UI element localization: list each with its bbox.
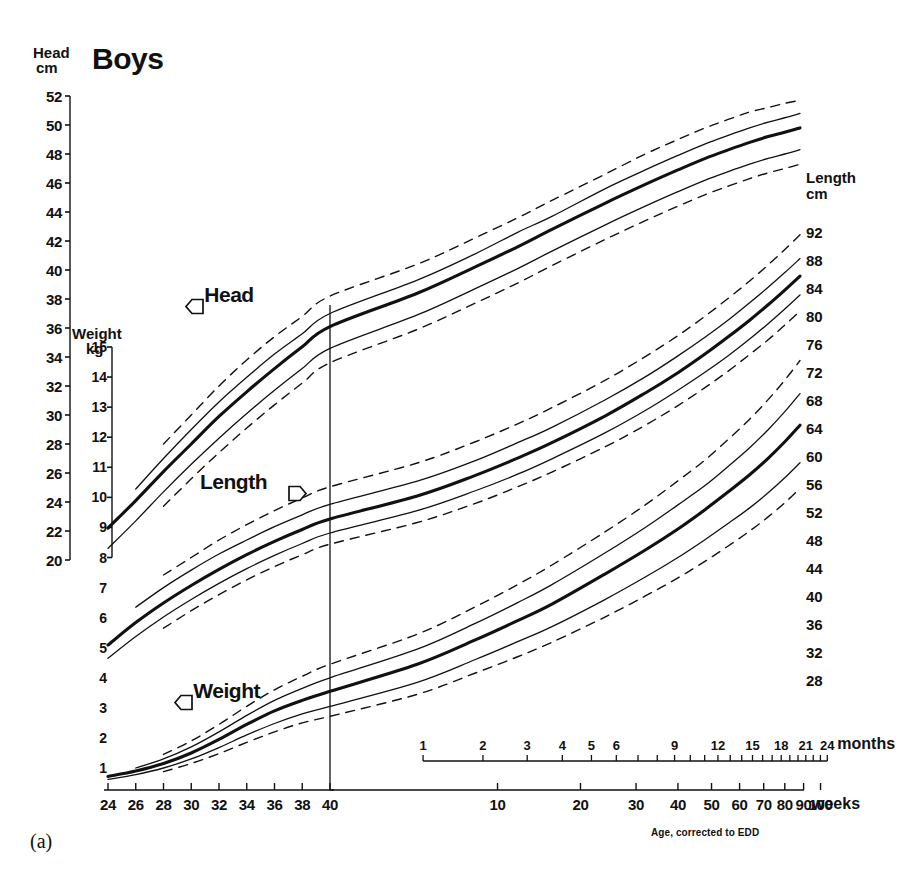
head-axis-tick-label: 26 [28, 465, 62, 482]
head-axis-tick-label: 20 [28, 552, 62, 569]
length-axis-tick-label: 76 [806, 336, 823, 353]
head-axis-unit: cm [36, 60, 58, 75]
head-axis-caption: Head [33, 45, 70, 60]
weight-axis-tick-label: 2 [75, 730, 107, 746]
head-axis-tick-label: 28 [28, 436, 62, 453]
length-axis-tick-label: 52 [806, 504, 823, 521]
weeks-axis-tick-label: 28 [153, 796, 175, 813]
length-curve-label: Length [200, 459, 307, 507]
weeks-axis-tick-label: 20 [567, 796, 593, 813]
centile-curve [108, 463, 800, 780]
head-axis-tick-label: 52 [28, 88, 62, 105]
length-curve-label-text: Length [200, 470, 267, 493]
weeks-axis-tick-label: 32 [208, 796, 230, 813]
head-axis-tick-label: 48 [28, 146, 62, 163]
weight-curve-label-text: Weight [193, 679, 260, 702]
weight-axis-tick-label: 4 [75, 670, 107, 686]
arrow-right-icon [267, 459, 307, 507]
weeks-axis-tick-label: 30 [623, 796, 649, 813]
weeks-axis-tick-label: 50 [699, 796, 725, 813]
weight-axis-tick-label: 3 [75, 700, 107, 716]
growth-chart: 5250484644424038363432302826242220Headcm… [0, 0, 903, 896]
weight-axis-tick-label: 6 [75, 610, 107, 626]
months-axis-tick-label: 1 [412, 738, 434, 753]
weeks-axis-tick-label: 60 [727, 796, 753, 813]
months-axis-tick-label: 15 [741, 738, 763, 753]
weeks-axis-tick-label: 34 [236, 796, 258, 813]
weight-curve-label: Weight [153, 668, 260, 716]
length-axis-tick-label: 48 [806, 532, 823, 549]
weight-axis-tick-label: 5 [75, 640, 107, 656]
months-axis-tick-label: 2 [472, 738, 494, 753]
weeks-axis-tick-label: 36 [264, 796, 286, 813]
length-axis-caption: Length [806, 170, 856, 185]
weeks-axis-tick-label: 40 [319, 796, 341, 813]
length-axis-tick-label: 32 [806, 644, 823, 661]
length-axis-tick-label: 84 [806, 280, 823, 297]
head-axis-tick-label: 24 [28, 494, 62, 511]
weeks-axis-tick-label: 26 [125, 796, 147, 813]
head-axis-tick-label: 40 [28, 262, 62, 279]
weight-axis-tick-label: 14 [75, 369, 107, 385]
head-axis-tick-label: 50 [28, 117, 62, 134]
head-axis-tick-label: 44 [28, 204, 62, 221]
months-axis-tick-label: 3 [516, 738, 538, 753]
length-axis-tick-label: 40 [806, 588, 823, 605]
weight-axis-tick-label: 11 [75, 459, 107, 475]
growth-chart-canvas [0, 0, 903, 896]
weeks-axis-tick-label: 24 [97, 796, 119, 813]
length-axis-tick-label: 72 [806, 364, 823, 381]
length-axis-tick-label: 88 [806, 252, 823, 269]
length-axis-tick-label: 64 [806, 420, 823, 437]
weight-axis-caption: Weight [72, 326, 122, 341]
age-footnote: Age, corrected to EDD [651, 827, 759, 838]
weight-axis-tick-label: 12 [75, 429, 107, 445]
months-axis-tick-label: 12 [707, 738, 729, 753]
head-axis-tick-label: 46 [28, 175, 62, 192]
head-axis-tick-label: 34 [28, 349, 62, 366]
months-axis-tick-label: 5 [580, 738, 602, 753]
weight-axis-tick-label: 7 [75, 580, 107, 596]
weight-axis-tick-label: 8 [75, 550, 107, 566]
weeks-axis-tick-label: 40 [665, 796, 691, 813]
weight-axis-tick-label: 9 [75, 519, 107, 535]
weeks-axis-tick-label: 30 [180, 796, 202, 813]
weight-axis-tick-label: 10 [75, 489, 107, 505]
length-axis-tick-label: 92 [806, 224, 823, 241]
length-axis-tick-label: 56 [806, 476, 823, 493]
length-axis-unit: cm [806, 186, 828, 201]
months-axis-tick-label: 6 [605, 738, 627, 753]
months-axis-unit-label: months [837, 735, 895, 753]
head-curve-label: Head [164, 272, 254, 320]
length-axis-tick-label: 60 [806, 448, 823, 465]
arrow-left-icon [153, 668, 193, 716]
length-axis-tick-label: 80 [806, 308, 823, 325]
months-axis-tick-label: 21 [795, 738, 817, 753]
centile-curve [164, 164, 801, 506]
head-axis-tick-label: 36 [28, 320, 62, 337]
length-axis-tick-label: 68 [806, 392, 823, 409]
figure-caption: (a) [30, 830, 52, 853]
head-axis-tick-label: 22 [28, 523, 62, 540]
weight-axis-tick-label: 1 [75, 760, 107, 776]
length-axis-tick-label: 28 [806, 672, 823, 689]
weeks-axis-tick-label: 10 [485, 796, 511, 813]
arrow-left-icon [164, 272, 204, 320]
length-axis-tick-label: 44 [806, 560, 823, 577]
months-axis-tick-label: 24 [816, 738, 838, 753]
chart-title: Boys [92, 42, 163, 76]
weeks-axis-unit-label: weeks [812, 795, 860, 813]
weight-axis-unit: kg [86, 341, 104, 356]
months-axis-tick-label: 9 [664, 738, 686, 753]
head-axis-tick-label: 30 [28, 407, 62, 424]
head-curve-label-text: Head [204, 283, 253, 306]
head-axis-tick-label: 38 [28, 291, 62, 308]
weight-axis-tick-label: 13 [75, 399, 107, 415]
months-axis-tick-label: 4 [551, 738, 573, 753]
length-axis-tick-label: 36 [806, 616, 823, 633]
weeks-axis-tick-label: 38 [291, 796, 313, 813]
head-axis-tick-label: 32 [28, 378, 62, 395]
months-axis-tick-label: 18 [770, 738, 792, 753]
centile-curve [164, 100, 801, 444]
head-axis-tick-label: 42 [28, 233, 62, 250]
